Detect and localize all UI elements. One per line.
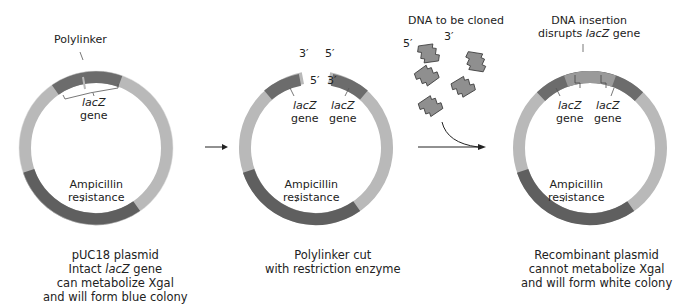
ampicillin-resistance-label: Ampicillin resistance [68,178,124,204]
dna-fragments [413,42,490,119]
lacz-left-label: lacZ gene [291,99,319,125]
arrow-step-2 [418,122,486,150]
arrow-step-1 [205,144,228,150]
fragment-3-end: 3′ [444,30,454,43]
polylinker-label: Polylinker [54,33,107,46]
end-right-bottom: 3′ [327,74,337,87]
caption-recombinant: Recombinant plasmid cannot metabolize Xg… [521,248,672,290]
fragment-5-end: 5′ [403,37,413,50]
dna-insertion-label: DNA insertion disrupts lacZ gene [538,14,640,40]
end-right-top: 5′ [325,47,335,60]
lacz-gene-label: lacZ gene [80,96,108,122]
ampicillin-resistance-label: Ampicillin resistance [548,178,604,204]
end-left-top: 3′ [299,47,309,60]
caption-puc18: pUC18 plasmid Intact lacZ gene can metab… [43,248,188,304]
ampicillin-resistance-label: Ampicillin resistance [283,178,339,204]
caption-cut: Polylinker cut with restriction enzyme [265,248,401,276]
lacz-right-label: lacZ gene [329,99,357,125]
lacz-right-label: lacZ gene [594,99,622,125]
dna-to-be-cloned-label: DNA to be cloned [408,14,504,27]
end-left-bottom: 5′ [310,74,320,87]
lacz-left-label: lacZ gene [556,99,584,125]
